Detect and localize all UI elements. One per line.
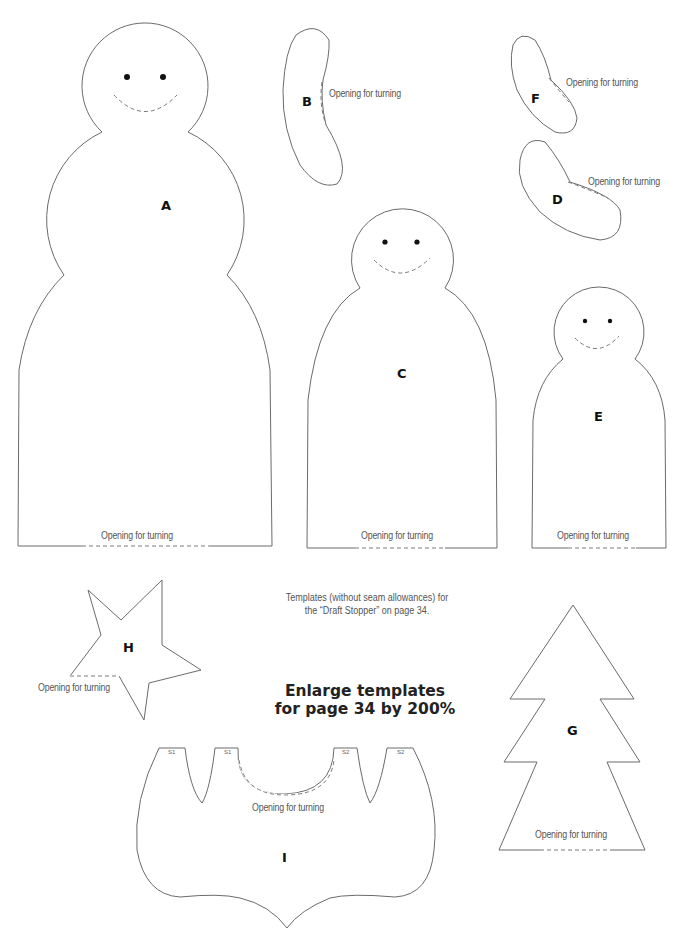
template-drawing bbox=[0, 0, 681, 941]
template-f-opening-note: Opening for turning bbox=[566, 77, 638, 88]
template-i-label: I bbox=[282, 850, 287, 865]
template-g-label: G bbox=[567, 723, 578, 738]
template-a-label: A bbox=[161, 198, 171, 213]
seam-mark-s1-right: S1 bbox=[224, 749, 231, 755]
template-b-opening-note: Opening for turning bbox=[329, 88, 401, 99]
template-i-opening-note: Opening for turning bbox=[252, 802, 324, 813]
template-b-shape bbox=[283, 29, 343, 186]
headline-line-2: for page 34 by 200% bbox=[270, 700, 460, 718]
template-e-label: E bbox=[594, 409, 603, 424]
template-i-shape bbox=[136, 748, 435, 928]
template-f-label: F bbox=[531, 91, 540, 106]
template-d-opening-note: Opening for turning bbox=[588, 176, 660, 187]
template-d-label: D bbox=[552, 192, 563, 207]
template-h-opening-note: Opening for turning bbox=[38, 682, 110, 693]
template-g-opening-note: Opening for turning bbox=[535, 829, 607, 840]
seam-mark-s2-right: S2 bbox=[397, 749, 404, 755]
caption-line-1: Templates (without seam allowances) for bbox=[273, 591, 462, 604]
headline-line-1: Enlarge templates bbox=[270, 682, 460, 700]
template-a-shape bbox=[18, 23, 272, 546]
enlarge-instruction: Enlarge templates for page 34 by 200% bbox=[270, 682, 460, 718]
template-c-label: C bbox=[397, 366, 407, 381]
template-a-opening-note: Opening for turning bbox=[101, 530, 173, 541]
template-h-shape bbox=[70, 580, 201, 720]
template-caption: Templates (without seam allowances) for … bbox=[273, 591, 462, 617]
template-b-label: B bbox=[302, 94, 312, 109]
seam-mark-s1-left: S1 bbox=[168, 749, 175, 755]
template-c-opening-note: Opening for turning bbox=[361, 530, 433, 541]
template-d-shape bbox=[519, 140, 621, 240]
template-e-opening-note: Opening for turning bbox=[557, 530, 629, 541]
template-h-label: H bbox=[123, 640, 134, 655]
seam-mark-s2-left: S2 bbox=[342, 749, 349, 755]
caption-line-2: the “Draft Stopper” on page 34. bbox=[273, 604, 462, 617]
